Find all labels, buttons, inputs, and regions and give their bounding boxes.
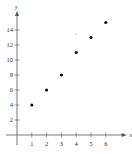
y-tick-label: 8	[10, 71, 13, 78]
y-axis-arrow-icon	[15, 11, 19, 16]
x-tick-label: 4	[75, 140, 79, 147]
data-point	[104, 21, 107, 24]
x-tick-label: 1	[30, 140, 33, 147]
data-point	[75, 51, 78, 54]
data-point	[45, 88, 48, 91]
x-tick-label: 3	[60, 140, 63, 147]
y-tick-label: 6	[10, 86, 14, 93]
x-tick-label: 5	[89, 140, 92, 147]
x-tick-label: 6	[104, 140, 108, 147]
y-axis-label: y	[14, 4, 18, 10]
x-axis-label: x	[129, 132, 132, 138]
x-axis-arrow-icon	[122, 133, 127, 137]
plot-area: xy1234562468101214*	[0, 0, 132, 154]
y-tick-label: 4	[10, 101, 14, 108]
data-point	[60, 73, 63, 76]
x-tick-label: 2	[45, 140, 48, 147]
y-tick-label: 2	[10, 116, 13, 123]
data-point	[30, 103, 33, 106]
annotation-mark: *	[75, 32, 78, 37]
y-tick-label: 10	[7, 56, 14, 63]
data-point	[89, 36, 92, 39]
y-tick-label: 14	[7, 26, 14, 33]
scatter-chart: xy1234562468101214*	[0, 0, 132, 154]
y-tick-label: 12	[7, 41, 14, 48]
